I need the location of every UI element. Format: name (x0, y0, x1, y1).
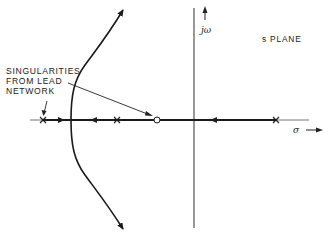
arrow-left-icon (90, 117, 97, 123)
zero-marker-icon (154, 117, 160, 123)
root-locus-diagram: jω s PLANE σ SINGULARITIES FROM LEAD NET… (0, 0, 333, 239)
real-axis-label: σ (293, 125, 300, 135)
leader-arrowhead-icon (42, 110, 47, 116)
lower-locus-branch (71, 120, 123, 229)
annotation-line-2: FROM LEAD (6, 76, 62, 86)
annotation-line-1: SINGULARITIES (6, 66, 81, 76)
imaginary-axis-label: jω (199, 25, 212, 35)
arrow-right-icon (58, 117, 65, 123)
upper-locus-branch (71, 10, 123, 120)
annotation-leader-zero (68, 83, 150, 115)
s-plane-label: s PLANE (262, 34, 302, 44)
arrow-left-icon (210, 117, 217, 123)
annotation-line-3: NETWORK (6, 86, 55, 96)
imaginary-axis-arrow-icon (203, 6, 208, 20)
real-axis-arrow-icon (306, 128, 323, 133)
leader-arrowhead-icon (145, 111, 153, 116)
